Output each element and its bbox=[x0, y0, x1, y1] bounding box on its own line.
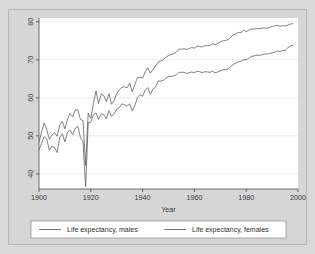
y-tick-label: 50 bbox=[27, 132, 36, 140]
y-axis-ticks: 4050607080 bbox=[27, 18, 40, 178]
x-axis-title: Year bbox=[161, 205, 176, 214]
x-axis-ticks: 190019201940196019802000 bbox=[31, 189, 306, 202]
life-expectancy-line-chart: 4050607080 190019201940196019802000 Year… bbox=[9, 10, 308, 246]
x-tick-label: 1900 bbox=[31, 193, 47, 202]
x-tick-label: 1980 bbox=[238, 193, 254, 202]
x-tick-label: 1960 bbox=[186, 193, 202, 202]
x-tick-label: 1920 bbox=[83, 193, 99, 202]
y-tick-label: 80 bbox=[27, 18, 36, 26]
plot-region: 4050607080 190019201940196019802000 Year… bbox=[9, 10, 308, 246]
x-tick-label: 2000 bbox=[290, 193, 306, 202]
y-tick-label: 40 bbox=[27, 170, 36, 178]
chart-legend: Life expectancy, males Life expectancy, … bbox=[31, 221, 286, 238]
x-tick-label: 1940 bbox=[135, 193, 151, 202]
y-tick-label: 70 bbox=[27, 56, 36, 64]
legend-label-males: Life expectancy, males bbox=[67, 226, 138, 234]
plot-area-background bbox=[39, 18, 298, 189]
y-tick-label: 60 bbox=[27, 94, 36, 102]
legend-label-females: Life expectancy, females bbox=[192, 226, 269, 234]
chart-figure: 4050607080 190019201940196019802000 Year… bbox=[8, 9, 307, 245]
